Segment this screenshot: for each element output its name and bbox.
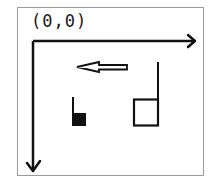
diagram-frame <box>18 8 204 176</box>
filled-square-icon <box>72 113 86 126</box>
coordinate-diagram: (0,0) <box>0 0 217 189</box>
origin-label: (0,0) <box>31 11 87 31</box>
